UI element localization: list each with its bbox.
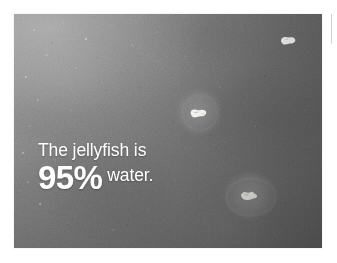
caption-line-1: The jellyfish is [38, 140, 238, 160]
caption-overlay: The jellyfish is 95% water. [38, 140, 238, 195]
right-margin-rule [331, 14, 332, 44]
caption-line-2: 95% water. [38, 161, 238, 195]
caption-line-2-tail: water. [107, 167, 153, 185]
film-grain-overlay [14, 14, 322, 248]
caption-percent-value: 95% [38, 161, 102, 195]
image-canvas: The jellyfish is 95% water. [0, 0, 337, 263]
underwater-photo: The jellyfish is 95% water. [14, 14, 322, 248]
